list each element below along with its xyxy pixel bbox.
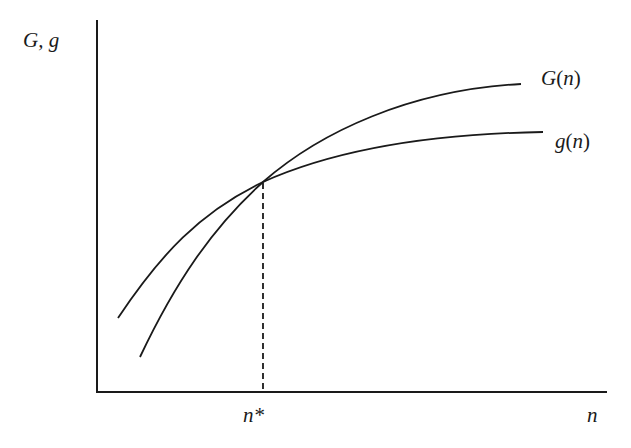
x-axis-label: n <box>587 405 598 426</box>
x-axis-label-text: n <box>587 403 598 427</box>
G-curve-label: G(n) <box>541 68 581 89</box>
n-star-label: n* <box>243 405 264 426</box>
y-axis-label-text: G, g <box>23 28 59 52</box>
y-axis-label: G, g <box>23 30 59 51</box>
G-curve <box>140 84 521 357</box>
g-curve <box>118 132 543 318</box>
n-star-label-text: n* <box>243 403 264 427</box>
g-curve-label: g(n) <box>555 131 590 152</box>
diagram-canvas <box>0 0 631 448</box>
